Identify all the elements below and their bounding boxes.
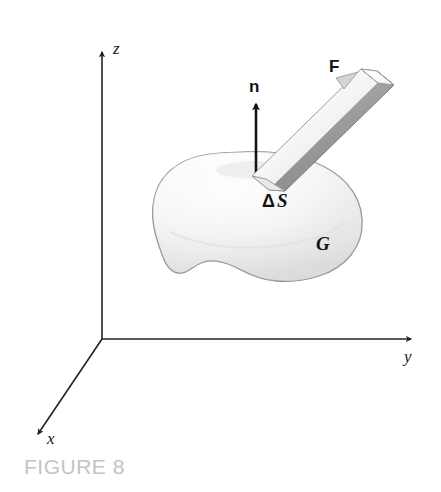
patch-s-symbol: S	[277, 190, 288, 211]
patch-area-label: ΔS	[262, 190, 288, 211]
figure-graphic: z y x n	[0, 0, 441, 492]
y-axis-label: y	[402, 347, 412, 366]
figure-panel: z y x n	[0, 0, 441, 492]
x-axis-line	[38, 339, 102, 434]
patch-delta-symbol: Δ	[262, 191, 275, 211]
figure-caption: FIGURE 8	[24, 455, 125, 479]
region-g-label: G	[316, 233, 330, 254]
force-vector-label: F	[329, 57, 339, 76]
z-axis-label: z	[112, 39, 120, 58]
normal-vector-label: n	[249, 77, 259, 96]
x-axis-label: x	[46, 429, 55, 448]
